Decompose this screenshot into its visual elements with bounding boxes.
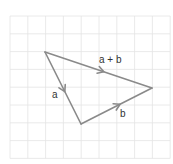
label-b: b <box>120 108 126 119</box>
vector-diagram: a + b a b <box>0 0 173 164</box>
grid <box>10 16 170 158</box>
label-a: a <box>52 89 58 100</box>
label-a-plus-b: a + b <box>99 54 122 65</box>
